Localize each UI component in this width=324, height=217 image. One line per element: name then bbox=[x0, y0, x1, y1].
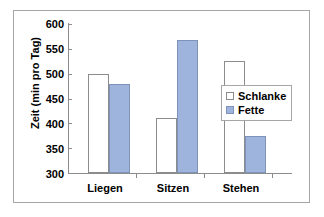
bar-sitzen-schlanke bbox=[156, 118, 177, 173]
chart-legend: Schlanke Fette bbox=[221, 85, 292, 121]
bar-liegen-schlanke bbox=[88, 74, 109, 173]
y-tick-label-400: 400 bbox=[30, 119, 64, 130]
x-category-label-sitzen: Sitzen bbox=[144, 182, 202, 194]
y-tick-label-350: 350 bbox=[30, 144, 64, 155]
bar-stehen-fette bbox=[245, 136, 266, 173]
x-axis-tick-2 bbox=[204, 174, 205, 178]
legend-swatch-icon-schlanke bbox=[226, 92, 234, 100]
chart-figure: Zeit (min pro Tag) 600 550 500 450 400 3… bbox=[13, 10, 310, 203]
bar-liegen-fette bbox=[109, 84, 130, 173]
legend-item-fette: Fette bbox=[226, 103, 286, 117]
x-category-label-stehen: Stehen bbox=[212, 182, 270, 194]
x-axis-tick-1 bbox=[136, 174, 137, 178]
y-tick-label-300: 300 bbox=[30, 169, 64, 180]
legend-label-schlanke: Schlanke bbox=[238, 91, 286, 102]
y-tick-label-550: 550 bbox=[30, 44, 64, 55]
y-axis-tick-labels: 600 550 500 450 400 350 300 bbox=[22, 11, 64, 204]
y-axis-tick-300 bbox=[68, 173, 72, 174]
x-category-label-liegen: Liegen bbox=[76, 182, 134, 194]
x-axis-tick-3 bbox=[272, 174, 273, 178]
y-tick-label-500: 500 bbox=[30, 69, 64, 80]
x-axis-line bbox=[68, 173, 292, 174]
legend-swatch-icon-fette bbox=[226, 106, 234, 114]
y-tick-label-600: 600 bbox=[30, 19, 64, 30]
legend-item-schlanke: Schlanke bbox=[226, 89, 286, 103]
bar-sitzen-fette bbox=[177, 40, 198, 173]
legend-label-fette: Fette bbox=[238, 105, 264, 116]
y-tick-label-450: 450 bbox=[30, 94, 64, 105]
